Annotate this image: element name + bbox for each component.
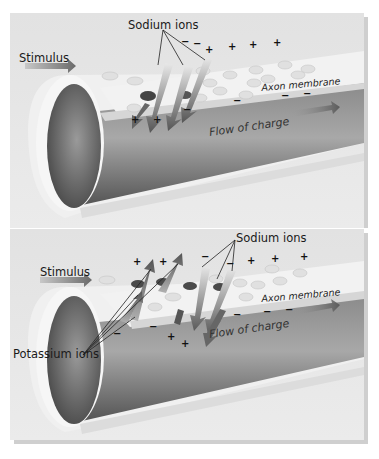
- positive-charge-sign: +: [131, 115, 139, 125]
- negative-charge-sign: −: [233, 96, 241, 106]
- negative-charge-sign: −: [303, 89, 311, 99]
- panel-shadow: [14, 440, 368, 444]
- negative-charge-sign: −: [149, 322, 157, 332]
- sodium-ions-label: Sodium ions: [236, 233, 307, 245]
- negative-charge-sign: −: [113, 329, 121, 339]
- positive-charge-sign: +: [247, 256, 255, 266]
- negative-charge-sign: −: [226, 259, 234, 269]
- negative-charge-sign: −: [181, 37, 189, 47]
- negative-charge-sign: −: [281, 91, 289, 101]
- positive-charge-sign: +: [300, 252, 308, 262]
- panel-shadow: [364, 233, 368, 440]
- negative-charge-sign: −: [263, 307, 271, 317]
- negative-charge-sign: −: [285, 305, 293, 315]
- sodium-ions-label: Sodium ions: [128, 20, 199, 32]
- negative-charge-sign: −: [201, 252, 209, 262]
- positive-charge-sign: +: [133, 257, 141, 267]
- positive-charge-sign: +: [205, 45, 213, 55]
- negative-charge-sign: −: [193, 39, 201, 49]
- axon-illustration-bottom: [10, 229, 364, 440]
- positive-charge-sign: +: [273, 38, 281, 48]
- positive-charge-sign: +: [249, 40, 257, 50]
- positive-charge-sign: +: [271, 254, 279, 264]
- negative-charge-sign: −: [233, 310, 241, 320]
- positive-charge-sign: +: [181, 339, 189, 349]
- stimulus-label: Stimulus: [19, 53, 69, 65]
- positive-charge-sign: +: [159, 257, 167, 267]
- positive-charge-sign: +: [153, 115, 161, 125]
- panel-potassium-efflux: Stimulus Sodium ions Potassium ions Axon…: [10, 229, 364, 440]
- positive-charge-sign: +: [228, 42, 236, 52]
- positive-charge-sign: +: [167, 332, 175, 342]
- panel-shadow: [364, 17, 368, 228]
- negative-charge-sign: −: [183, 105, 191, 115]
- potassium-ions-label: Potassium ions: [13, 349, 99, 361]
- stimulus-label: Stimulus: [40, 267, 90, 279]
